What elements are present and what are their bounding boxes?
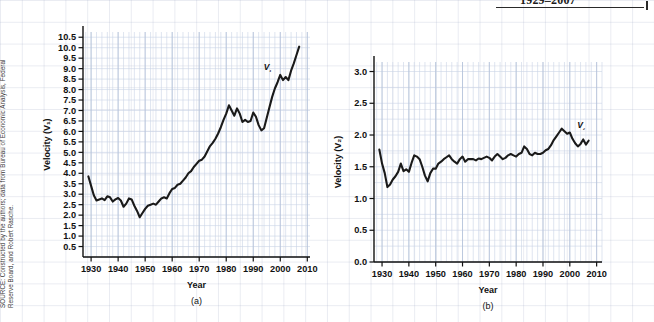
x-tick-label: 1960 bbox=[162, 264, 182, 274]
x-tick-label: 1980 bbox=[506, 269, 526, 279]
series-label: V₂ bbox=[577, 120, 586, 131]
y-tick-label: 0.0 bbox=[354, 257, 367, 267]
y-tick-label: 6.5 bbox=[63, 116, 76, 126]
x-tick-label: 1960 bbox=[452, 269, 472, 279]
x-tick-label: 2010 bbox=[586, 269, 606, 279]
title-endcap bbox=[646, 1, 648, 10]
x-tick-label: 2000 bbox=[560, 269, 580, 279]
y-tick-label: 2.5 bbox=[354, 98, 367, 108]
y-tick-label: 2.5 bbox=[63, 200, 76, 210]
y-tick-label: 7.5 bbox=[63, 95, 76, 105]
y-tick-label: 3.5 bbox=[63, 179, 76, 189]
x-tick-label: 1940 bbox=[108, 264, 128, 274]
y-tick-label: 5.5 bbox=[63, 137, 76, 147]
x-tick-label: 2000 bbox=[270, 264, 290, 274]
y-tick-label: 6.0 bbox=[63, 127, 76, 137]
y-tick-label: 8.0 bbox=[63, 85, 76, 95]
y-axis-title: Velocity (V₂) bbox=[333, 136, 343, 189]
y-tick-label: 4.5 bbox=[63, 158, 76, 168]
x-tick-label: 1990 bbox=[533, 269, 553, 279]
x-tick-label: 1970 bbox=[189, 264, 209, 274]
x-tick-label: 1970 bbox=[479, 269, 499, 279]
y-tick-label: 0.5 bbox=[63, 242, 76, 252]
title-rule bbox=[496, 7, 644, 8]
y-tick-label: 5.0 bbox=[63, 148, 76, 158]
y-tick-label: 1.5 bbox=[63, 221, 76, 231]
figure-title-strip: 1929–2007 bbox=[496, 0, 654, 12]
y-tick-label: 2.0 bbox=[354, 130, 367, 140]
x-tick-label: 1950 bbox=[135, 264, 155, 274]
y-tick-label: 8.5 bbox=[63, 74, 76, 84]
y-tick-label: 2.0 bbox=[63, 210, 76, 220]
y-tick-label: 10.5 bbox=[58, 32, 76, 42]
y-tick-label: 1.0 bbox=[63, 231, 76, 241]
y-tick-label: 9.0 bbox=[63, 64, 76, 74]
y-tick-label: 7.0 bbox=[63, 106, 76, 116]
y-tick-label: 3.0 bbox=[354, 67, 367, 77]
x-tick-label: 1930 bbox=[81, 264, 101, 274]
x-tick-label: 1950 bbox=[425, 269, 445, 279]
source-note: SOURCE: Constructed by the authors; data… bbox=[0, 38, 16, 308]
x-tick-label: 1930 bbox=[372, 269, 392, 279]
panel-letter: (a) bbox=[191, 296, 202, 306]
series-label: V₁ bbox=[264, 62, 272, 73]
y-tick-label: 9.5 bbox=[63, 53, 76, 63]
y-tick-label: 10.0 bbox=[58, 43, 76, 53]
y-tick-label: 3.0 bbox=[63, 189, 76, 199]
y-tick-label: 1.0 bbox=[354, 194, 367, 204]
chart-a-svg: 0.51.01.52.02.53.03.54.04.55.05.56.06.57… bbox=[10, 10, 330, 322]
figure-container: 1929–2007 SOURCE: Constructed by the aut… bbox=[0, 0, 654, 322]
chart-panel-b: 0.00.51.01.52.02.53.01930194019501960197… bbox=[330, 10, 650, 322]
y-axis-title: Velocity (V₁) bbox=[42, 118, 52, 170]
panel-letter: (b) bbox=[483, 301, 494, 311]
x-tick-label: 1980 bbox=[216, 264, 236, 274]
y-tick-label: 1.5 bbox=[354, 162, 367, 172]
x-tick-label: 2010 bbox=[297, 264, 317, 274]
chart-b-svg: 0.00.51.01.52.02.53.01930194019501960197… bbox=[330, 10, 650, 322]
y-tick-label: 4.0 bbox=[63, 168, 76, 178]
chart-panel-a: 0.51.01.52.02.53.03.54.04.55.05.56.06.57… bbox=[10, 10, 330, 322]
y-tick-label: 0.5 bbox=[354, 225, 367, 235]
x-axis-title: Year bbox=[187, 280, 207, 290]
x-tick-label: 1990 bbox=[243, 264, 263, 274]
x-axis-title: Year bbox=[478, 285, 498, 295]
x-tick-label: 1940 bbox=[399, 269, 419, 279]
